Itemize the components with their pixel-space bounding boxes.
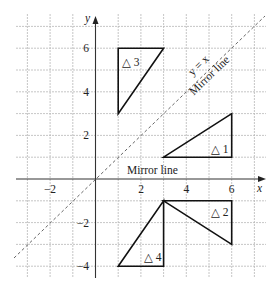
x-tick-label: −2: [44, 183, 56, 195]
y-tick-label: −2: [77, 217, 89, 229]
y-tick-label: −4: [77, 260, 89, 272]
triangles: [118, 48, 232, 266]
triangle-1-label: △ 1: [211, 143, 229, 155]
horizontal-mirror-line-label: Mirror line: [127, 164, 178, 176]
y-tick-label: 2: [83, 129, 89, 141]
x-tick-label: 6: [229, 183, 235, 195]
x-tick-label: 4: [183, 183, 189, 195]
y-axis-arrow-icon: [93, 16, 99, 24]
triangle-2-label: △ 2: [211, 206, 229, 218]
triangle-4-label: △ 4: [144, 251, 162, 263]
y-tick-label: 6: [83, 42, 89, 54]
triangle-3-label: △ 3: [122, 56, 140, 68]
y-axis-label: y: [84, 12, 91, 25]
reflection-diagram: −2 2 4 6 6 4 2 −2 −4 x y △ 1 △ 2 △ 3 △ 4…: [0, 0, 274, 293]
x-tick-label: 2: [138, 183, 144, 195]
grid: [16, 14, 266, 278]
y-tick-label: 4: [83, 86, 89, 98]
mirror-line-y-equals-x: [14, 16, 265, 258]
x-axis-label: x: [256, 182, 263, 194]
